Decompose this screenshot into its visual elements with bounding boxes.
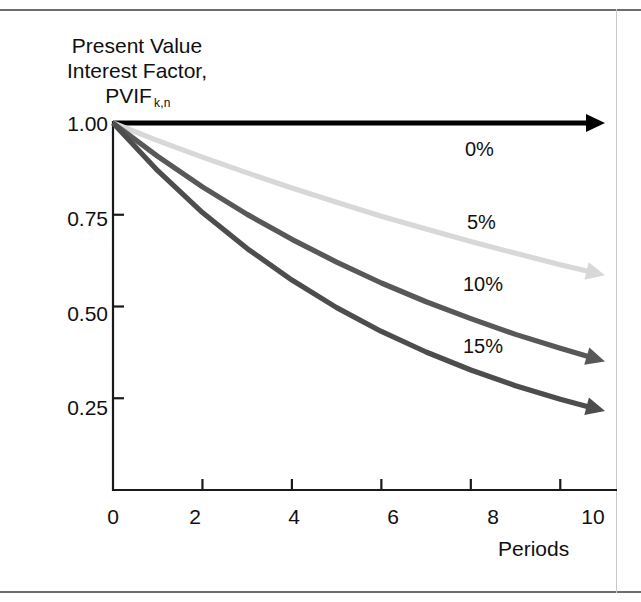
figure-container: Present Value Interest Factor, PVIFk,n 1…: [0, 0, 641, 602]
y-tick-label-0-75: 0.75: [44, 207, 108, 231]
x-tick-label-10: 10: [571, 505, 615, 529]
x-tick-label-0: 0: [91, 505, 135, 529]
x-axis-title: Periods: [498, 537, 569, 561]
series-label-0-percent: 0%: [465, 138, 494, 161]
x-tick-label-2: 2: [173, 505, 217, 529]
x-tick-label-4: 4: [272, 505, 316, 529]
series-label-10-percent: 10%: [463, 273, 503, 296]
y-tick-label-0-25: 0.25: [44, 396, 108, 420]
x-tick-label-6: 6: [371, 505, 415, 529]
series-group: [113, 114, 605, 415]
series-curve-15-percent: [113, 123, 588, 407]
series-label-15-percent: 15%: [463, 335, 503, 358]
series-arrowhead-10-percent: [584, 348, 605, 365]
y-tick-label-0-50: 0.50: [44, 302, 108, 326]
y-tick-label-1-00: 1.00: [44, 112, 108, 136]
series-arrowhead-0-percent: [586, 114, 605, 132]
series-curve-10-percent: [113, 123, 588, 357]
series-arrowhead-15-percent: [584, 398, 605, 415]
series-arrowhead-5-percent: [584, 262, 605, 280]
x-tick-label-8: 8: [471, 505, 515, 529]
series-label-5-percent: 5%: [467, 211, 496, 234]
